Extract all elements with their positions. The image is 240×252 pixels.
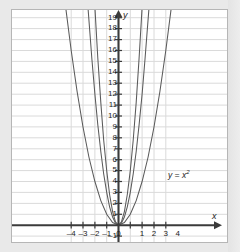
y-tick-label-6: 6 bbox=[105, 156, 117, 164]
y-tick-label-8: 8 bbox=[105, 134, 117, 142]
y-tick-label-1: 1 bbox=[105, 210, 117, 218]
y-tick-label-7: 7 bbox=[105, 145, 117, 153]
y-tick-label-14: 14 bbox=[105, 68, 117, 76]
x-axis-arrow-icon bbox=[214, 221, 222, 229]
y-tick-label-9: 9 bbox=[105, 123, 117, 131]
y-tick-label-10: 10 bbox=[105, 112, 117, 120]
y-tick-label-3: 3 bbox=[105, 188, 117, 196]
y-tick-label-19: 19 bbox=[105, 14, 117, 22]
y-tick-label-18: 18 bbox=[105, 24, 117, 32]
y-tick-label-17: 17 bbox=[105, 35, 117, 43]
axes bbox=[12, 10, 222, 242]
curve-annotation-label: y = x2 bbox=[168, 169, 190, 179]
x-tick-label-0: 0 bbox=[112, 230, 125, 238]
y-tick-label-4: 4 bbox=[105, 177, 117, 185]
y-tick-label-15: 15 bbox=[105, 57, 117, 65]
canvas-shading bbox=[228, 0, 240, 252]
curve-annotation-exponent: 2 bbox=[186, 169, 189, 175]
y-tick-label-2: 2 bbox=[105, 199, 117, 207]
x-axis-label: x bbox=[212, 212, 217, 221]
parabola-plot-svg bbox=[12, 10, 227, 242]
y-tick-label-5: 5 bbox=[105, 166, 117, 174]
x-tick-label-4: 4 bbox=[171, 230, 184, 238]
plot-area: 19 18 17 16 15 14 13 12 11 10 9 8 7 6 5 … bbox=[11, 9, 228, 243]
graph-screenshot: 19 18 17 16 15 14 13 12 11 10 9 8 7 6 5 … bbox=[0, 0, 240, 252]
y-tick-label-11: 11 bbox=[105, 101, 117, 109]
y-tick-label-16: 16 bbox=[105, 46, 117, 54]
y-tick-label-12: 12 bbox=[105, 90, 117, 98]
curve-annotation-base: y = x bbox=[168, 170, 186, 180]
y-axis-label: y bbox=[123, 11, 128, 20]
y-tick-label-13: 13 bbox=[105, 79, 117, 87]
